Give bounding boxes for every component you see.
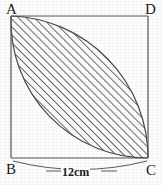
vertex-label-b: B [6,162,16,177]
figure-canvas [0,0,163,185]
shaded-lens-region [11,16,148,158]
dimension-label: 12cm [61,166,90,178]
vertex-label-d: D [145,2,156,17]
geometry-figure: A D B C 12cm [0,0,163,185]
vertex-label-a: A [6,2,17,17]
vertex-label-c: C [146,163,156,178]
